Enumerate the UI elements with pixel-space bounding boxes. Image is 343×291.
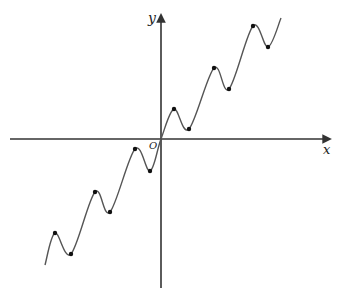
extremum-point (266, 45, 270, 49)
extremum-point (212, 66, 216, 70)
wave-curve (45, 18, 281, 265)
extremum-point (69, 252, 73, 256)
extremum-point (148, 169, 152, 173)
extremum-point (93, 190, 97, 194)
function-graph (0, 0, 343, 291)
extremum-point (251, 24, 255, 28)
origin-label: O (149, 140, 157, 151)
extremum-point (227, 87, 231, 91)
extremum-point (133, 147, 137, 151)
extremum-point (187, 127, 191, 131)
extremum-point (172, 107, 176, 111)
extremum-point (108, 210, 112, 214)
extremum-point (53, 231, 57, 235)
x-axis-label: x (323, 142, 330, 157)
y-axis-label: y (148, 10, 156, 26)
